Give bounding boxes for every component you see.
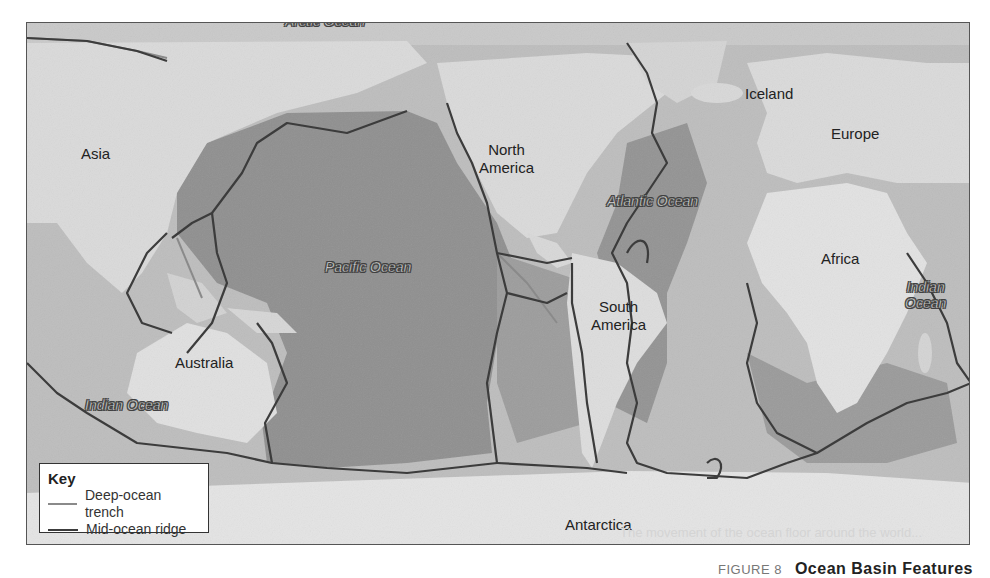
ocean-label-arctic: Arctic Ocean bbox=[285, 22, 365, 29]
south-america-line1: South bbox=[591, 298, 646, 316]
figure-title: Ocean Basin Features bbox=[795, 560, 973, 577]
north-america-line2: America bbox=[479, 159, 534, 177]
key-item-trench-label: Deep-ocean trench bbox=[85, 487, 200, 521]
map-key: Key Deep-ocean trench Mid-ocean ridge bbox=[39, 463, 209, 533]
ocean-label-indian-line2: Ocean bbox=[905, 295, 946, 311]
ocean-label-atlantic: Atlantic Ocean bbox=[607, 193, 698, 209]
continent-label-australia: Australia bbox=[175, 354, 233, 372]
key-title: Key bbox=[48, 470, 200, 487]
world-map: Arctic Ocean Atlantic Ocean Pacific Ocea… bbox=[26, 22, 970, 545]
ocean-label-pacific: Pacific Ocean bbox=[325, 259, 411, 275]
continent-label-south-america: South America bbox=[591, 298, 646, 334]
figure-number: FIGURE 8 bbox=[718, 562, 782, 577]
trench-line-icon bbox=[48, 503, 77, 505]
figure-caption: FIGURE 8 Ocean Basin Features bbox=[718, 560, 973, 578]
key-item-ridge-label: Mid-ocean ridge bbox=[86, 521, 186, 538]
ocean-label-indian-line1: Indian bbox=[905, 279, 946, 295]
ridge-line-icon bbox=[48, 529, 78, 531]
key-item-ridge: Mid-ocean ridge bbox=[48, 521, 200, 538]
bleed-through-text: The movement of the ocean floor around t… bbox=[620, 525, 922, 540]
continent-label-north-america: North America bbox=[479, 141, 534, 177]
south-america-line2: America bbox=[591, 316, 646, 334]
continent-label-africa: Africa bbox=[821, 250, 859, 268]
continent-label-europe: Europe bbox=[831, 125, 879, 143]
continent-label-asia: Asia bbox=[81, 145, 110, 163]
continent-label-iceland: Iceland bbox=[745, 85, 793, 103]
key-item-trench: Deep-ocean trench bbox=[48, 487, 200, 521]
ocean-label-indian-west: Indian Ocean bbox=[85, 397, 168, 413]
north-america-line1: North bbox=[479, 141, 534, 159]
ocean-label-indian-east: Indian Ocean bbox=[905, 279, 946, 311]
